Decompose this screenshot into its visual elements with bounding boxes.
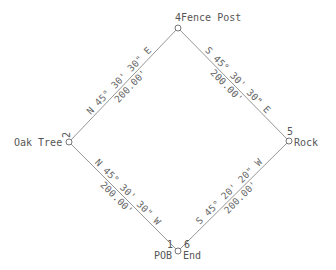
- point-1-name: POB: [154, 250, 172, 261]
- point-5-number: 5: [287, 126, 293, 137]
- point-6-number: 6: [184, 239, 190, 250]
- course-2-4-bearing: N 45° 30' 30" E: [84, 45, 153, 117]
- course-1-2-annotation: N 45° 30' 30" W 200.00': [84, 157, 163, 236]
- course-4-5-bearing: S 45° 30' 30" E: [203, 44, 273, 115]
- point-6-name: End: [183, 250, 201, 261]
- point-1-6-marker-icon[interactable]: [175, 248, 181, 254]
- point-2-number: 2: [61, 132, 72, 138]
- point-4-marker-icon[interactable]: [175, 25, 181, 31]
- point-4-label: 4Fence Post: [175, 12, 241, 23]
- point-markers: [66, 25, 292, 254]
- point-2-marker-icon[interactable]: [66, 139, 72, 145]
- point-5-marker-icon[interactable]: [286, 138, 292, 144]
- boundary-lines: [69, 28, 289, 251]
- survey-plat-canvas: 4Fence Post 2 Oak Tree 5 Rock 1 POB 6 En…: [0, 0, 336, 270]
- point-2-name: Oak Tree: [14, 137, 62, 148]
- point-5-name: Rock: [294, 137, 318, 148]
- point-1-number: 1: [167, 239, 173, 250]
